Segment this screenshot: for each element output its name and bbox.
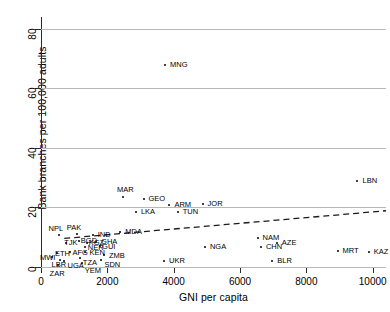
point-label-jor: JOR	[208, 200, 223, 208]
data-point-jor	[202, 203, 204, 205]
point-label-mrt: MRT	[343, 247, 359, 255]
x-tick-label-10000: 10000	[348, 276, 390, 287]
scatter-chart-figure: Bank branches per 100,000 adults GNI per…	[0, 0, 390, 312]
point-label-blr: BLR	[277, 257, 292, 265]
point-label-nam: NAM	[263, 234, 280, 242]
data-point-mrt	[337, 250, 339, 252]
data-point-blr	[271, 260, 273, 262]
y-tick-label-60: 60	[27, 88, 38, 110]
data-point-kaz	[368, 251, 370, 253]
point-label-ukr: UKR	[169, 257, 185, 265]
point-label-pak: PAK	[67, 224, 81, 232]
x-tick-label-4000: 4000	[149, 276, 199, 287]
data-point-mar	[122, 196, 124, 198]
point-label-lka: LKA	[141, 208, 155, 216]
point-label-yem: YEM	[85, 267, 101, 275]
point-label-geo: GEO	[149, 195, 166, 203]
point-label-lbn: LBN	[362, 177, 377, 185]
x-axis-label: GNI per capita	[41, 291, 386, 303]
x-tick-label-6000: 6000	[215, 276, 265, 287]
data-point-tun	[177, 211, 179, 213]
data-point-zmb	[103, 254, 105, 256]
point-label-aze: AZE	[282, 239, 297, 247]
x-tick-label-8000: 8000	[281, 276, 331, 287]
point-label-mar: MAR	[117, 186, 134, 194]
data-point-lka	[135, 211, 137, 213]
data-point-geo	[143, 198, 145, 200]
point-label-tun: TUN	[183, 208, 198, 216]
point-label-chn: CHN	[266, 243, 282, 251]
x-tick-label-0: 0	[16, 276, 66, 287]
point-label-tjk: TJK	[64, 239, 77, 247]
point-label-afg: AFG	[73, 249, 88, 257]
plot-area: MNGLBNMARGEOARMJORLKATUNNAMAZECHNMRTKAZB…	[41, 17, 386, 267]
data-point-nam	[257, 237, 259, 239]
data-point-zar	[57, 264, 59, 266]
point-label-npl: NPL	[49, 225, 64, 233]
y-tick-label-20: 20	[27, 207, 38, 229]
data-point-bgd	[78, 240, 80, 242]
y-tick-label-80: 80	[27, 28, 38, 50]
data-point-ukr	[163, 260, 165, 262]
data-point-chn	[260, 246, 262, 248]
point-label-mng: MNG	[170, 61, 188, 69]
point-label-mda: MDA	[125, 228, 142, 236]
point-label-kaz: KAZ	[374, 248, 389, 256]
point-label-eth: ETH	[55, 250, 70, 258]
x-tick-label-2000: 2000	[82, 276, 132, 287]
y-tick-label-40: 40	[27, 147, 38, 169]
data-point-mng	[164, 64, 166, 66]
trend-line	[41, 17, 386, 267]
point-label-zmb: ZMB	[109, 252, 125, 260]
point-label-zar: ZAR	[50, 270, 65, 278]
point-label-sdn: SDN	[104, 261, 120, 269]
point-label-nga: NGA	[210, 243, 226, 251]
